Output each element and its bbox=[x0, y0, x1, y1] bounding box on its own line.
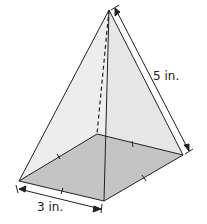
pyramid-diagram: 5 in. 3 in. bbox=[0, 0, 207, 224]
base-edge-label: 3 in. bbox=[37, 200, 63, 214]
slant-edge-label: 5 in. bbox=[153, 69, 179, 83]
